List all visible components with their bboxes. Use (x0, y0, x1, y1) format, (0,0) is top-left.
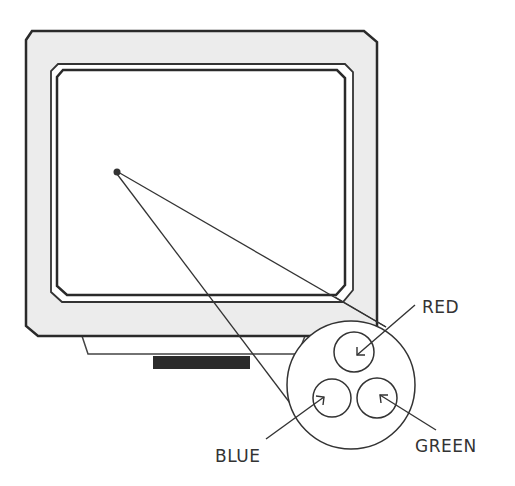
screen (57, 70, 345, 295)
red-label: RED (422, 297, 459, 317)
green-phosphor-dot (357, 378, 397, 418)
blue-label: BLUE (215, 446, 260, 466)
red-phosphor-dot (334, 332, 374, 372)
monitor-base-bar (153, 356, 250, 369)
monitor-diagram: RED BLUE GREEN (0, 0, 515, 486)
blue-phosphor-dot (313, 379, 351, 417)
green-label: GREEN (415, 436, 477, 456)
monitor-stand (82, 336, 305, 354)
